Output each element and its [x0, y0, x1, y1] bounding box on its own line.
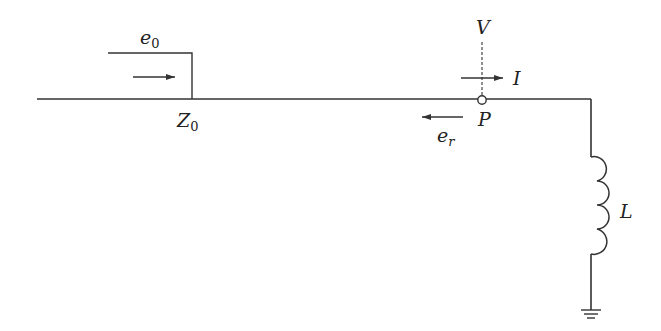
inductor-coil [591, 157, 609, 255]
voltage-label: V [476, 16, 492, 38]
surge-impedance-label: Z0 [176, 109, 198, 134]
node-p [478, 96, 486, 104]
current-label: I [512, 67, 521, 89]
incident-wave-label: e0 [140, 26, 160, 51]
reflected-wave-label: er [437, 124, 455, 149]
inductor-label: L [619, 200, 633, 222]
incident-wave-front [108, 53, 192, 99]
node-label: P [477, 108, 492, 130]
ground-icon [581, 310, 601, 318]
circuit-diagram: e0 Z0 V I P er L [0, 0, 661, 331]
